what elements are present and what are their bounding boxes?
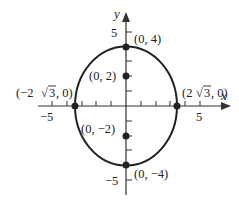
svg-text:3: 3 xyxy=(49,86,55,100)
x-tick-label-5: 5 xyxy=(196,110,202,124)
svg-text:, 0): , 0) xyxy=(211,86,228,100)
svg-text:, 0): , 0) xyxy=(56,86,73,100)
point-focus-top xyxy=(123,73,130,80)
x-tick-label-neg5: −5 xyxy=(40,110,53,124)
ellipse-diagram: y x 5 −5 −5 5 (0, 4) (0, 2) (0, −2) (0, … xyxy=(0,0,239,205)
svg-text:√: √ xyxy=(196,86,203,100)
label-bottom-vertex: (0, −4) xyxy=(134,167,168,181)
svg-text:(2: (2 xyxy=(182,86,192,100)
svg-text:(−2: (−2 xyxy=(16,86,33,100)
point-right-covertex xyxy=(174,103,181,110)
point-left-covertex xyxy=(72,103,79,110)
point-bottom-vertex xyxy=(123,162,130,169)
point-top-vertex xyxy=(123,44,130,51)
y-tick-label-neg5: −5 xyxy=(105,174,118,188)
point-focus-bottom xyxy=(123,133,130,140)
y-axis-arrow-icon xyxy=(122,12,130,22)
x-axis-arrow-icon xyxy=(221,102,231,110)
svg-text:3: 3 xyxy=(204,86,210,100)
label-focus-top: (0, 2) xyxy=(89,69,116,83)
label-focus-bottom: (0, −2) xyxy=(81,122,115,136)
label-top-vertex: (0, 4) xyxy=(134,32,161,46)
y-axis-label: y xyxy=(112,6,120,21)
y-tick-label-5: 5 xyxy=(111,26,117,40)
svg-text:√: √ xyxy=(41,86,48,100)
ellipse-graph: y x 5 −5 −5 5 (0, 4) (0, 2) (0, −2) (0, … xyxy=(0,0,239,205)
label-right-covertex: (2 √ 3 , 0) xyxy=(182,86,228,100)
label-left-covertex: (−2 √ 3 , 0) xyxy=(16,86,73,100)
